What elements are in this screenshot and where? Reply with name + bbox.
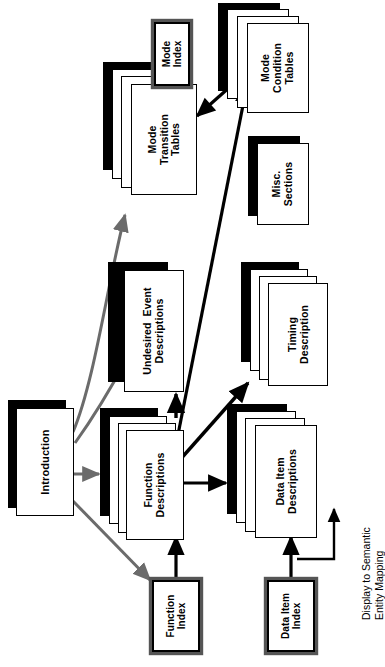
function-index-box[interactable]: Function Index bbox=[152, 580, 200, 652]
undesired-events-sheet[interactable]: Undesired Event Descriptions bbox=[124, 270, 184, 392]
mode-transition-sheet-1[interactable]: Mode Transition Tables bbox=[131, 84, 197, 195]
data-item-index-label: Data Item Index bbox=[257, 594, 325, 638]
node-misc-sections[interactable]: Misc. Sections bbox=[248, 136, 318, 226]
mode-condition-label: Mode Condition Tables bbox=[234, 38, 322, 98]
function-index-label: Function Index bbox=[142, 594, 210, 638]
annotation-display-mapping: Display to Semantic Entity Mapping bbox=[360, 527, 385, 620]
node-function-index[interactable]: Function Index bbox=[152, 580, 200, 652]
misc-sections-sheet[interactable]: Misc. Sections bbox=[257, 143, 309, 225]
timing-description-sheet-1[interactable]: Timing Description bbox=[268, 283, 328, 386]
mode-condition-sheet-1[interactable]: Mode Condition Tables bbox=[247, 23, 309, 113]
node-function-descriptions[interactable]: Function Descriptions bbox=[100, 408, 184, 540]
node-data-item-index[interactable]: Data Item Index bbox=[267, 580, 315, 652]
node-mode-index[interactable]: Mode Index bbox=[154, 22, 190, 86]
data-item-descriptions-sheet-1[interactable]: Data Item Descriptions bbox=[255, 425, 317, 538]
node-introduction[interactable]: Introduction bbox=[8, 400, 78, 516]
node-mode-condition-tables[interactable]: Mode Condition Tables bbox=[218, 3, 318, 113]
mode-index-box[interactable]: Mode Index bbox=[154, 22, 190, 86]
data-item-index-box[interactable]: Data Item Index bbox=[267, 580, 315, 652]
introduction-sheet[interactable]: Introduction bbox=[16, 408, 74, 516]
function-descriptions-sheet-1[interactable]: Function Descriptions bbox=[126, 430, 184, 540]
node-undesired-events[interactable]: Undesired Event Descriptions bbox=[108, 262, 186, 392]
node-timing-description[interactable]: Timing Description bbox=[241, 262, 333, 386]
node-data-item-descriptions[interactable]: Data Item Descriptions bbox=[227, 404, 323, 538]
